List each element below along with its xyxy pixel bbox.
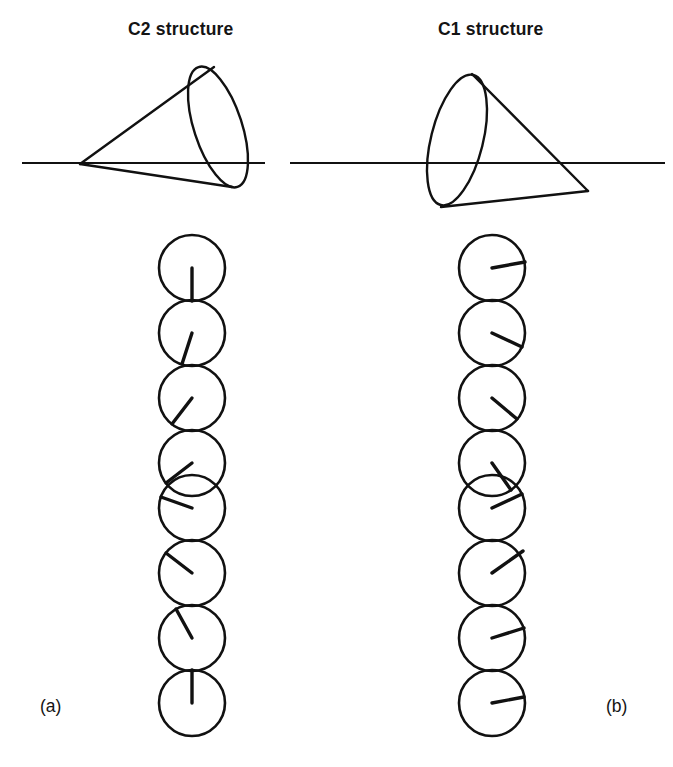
circle-chain-c2 [159,235,225,736]
director-line [492,333,522,347]
panel-c2 [22,60,265,736]
director-line [492,551,523,573]
cone-c1-slant-lower [441,191,588,207]
panel-c1 [290,69,665,736]
director-line [492,628,524,638]
director-line [492,463,511,490]
figure-root: C2 structure C1 structure (a) (b) [0,0,673,767]
cone-c2-base-ellipse [176,60,261,195]
director-line [166,553,192,573]
director-line [172,398,192,424]
circle-chain-c1 [459,235,525,736]
director-line [492,398,517,419]
cone-c1 [416,69,588,212]
cone-c2-slant-upper [80,67,214,164]
director-line [161,497,192,508]
director-line [492,262,525,268]
cone-c1-slant-upper [472,74,588,191]
director-line [176,609,192,638]
panel-label-a: (a) [40,696,61,717]
panel-label-b: (b) [606,696,627,717]
cone-c2 [80,60,260,195]
figure-canvas [0,0,673,767]
panel-title-c1: C1 structure [438,19,544,40]
director-line [492,697,524,703]
panel-title-c2: C2 structure [128,19,234,40]
director-line [166,463,192,483]
director-line [182,333,192,364]
cone-c1-base-ellipse [416,69,499,212]
